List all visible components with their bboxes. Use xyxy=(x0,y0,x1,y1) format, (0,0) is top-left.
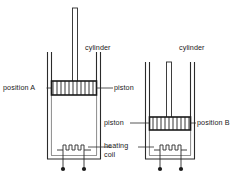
terminal-dot xyxy=(179,167,183,171)
terminal-dot xyxy=(61,167,65,171)
label-cylinder-left: cylinder xyxy=(85,44,111,52)
diagram-canvas: position A piston cylinder cylinder pist… xyxy=(0,0,230,176)
label-cylinder-right: cylinder xyxy=(179,44,205,52)
label-position-b: position B xyxy=(197,119,230,127)
gas-column-right xyxy=(150,130,191,155)
terminal-dot xyxy=(82,167,86,171)
piston-right xyxy=(150,117,191,130)
terminal-dot xyxy=(158,167,162,171)
label-piston-right: piston xyxy=(104,119,124,127)
piston-rod-right xyxy=(167,62,172,124)
label-piston-left: piston xyxy=(114,84,134,92)
cylinder-assembly-b xyxy=(130,62,196,171)
piston-left xyxy=(52,81,97,95)
label-position-a: position A xyxy=(3,84,35,92)
label-heating-coil-line2: coil xyxy=(104,151,115,159)
piston-rod-left xyxy=(73,8,78,90)
gas-column-left xyxy=(52,95,97,155)
